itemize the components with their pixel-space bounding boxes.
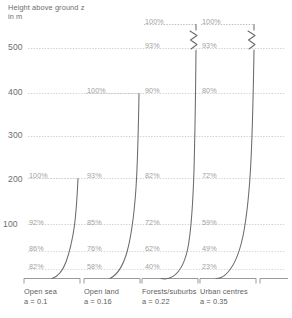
y-axis-label-400: 400: [8, 87, 23, 97]
value-label-forests-200: 82%: [145, 171, 160, 180]
value-label-forests-500: 93%: [145, 41, 160, 50]
value-label-urban-20: 23%: [202, 262, 217, 271]
value-label-open-sea-200: 100%: [29, 171, 48, 180]
value-label-open-sea-100: 92%: [29, 218, 44, 227]
value-label-forests-top: 100%: [145, 17, 164, 26]
gridlines: [28, 49, 284, 270]
value-label-forests-50: 62%: [145, 244, 160, 253]
curve-urban-centres: [216, 25, 255, 279]
y-axis-label-100: 100: [3, 219, 18, 229]
value-label-forests-400: 90%: [145, 86, 160, 95]
value-label-open-sea-20: 82%: [29, 262, 44, 271]
panel-caption-open-sea: Open sea a = 0.1: [24, 287, 57, 306]
panel-caption-forests-suburbs: Forests/suburbs a = 0.22: [142, 287, 197, 306]
value-label-open-land-20: 58%: [87, 262, 102, 271]
curve-forests-suburbs: [161, 25, 197, 279]
y-axis-label-500: 500: [8, 42, 23, 52]
value-label-urban-50: 49%: [202, 244, 217, 253]
value-label-urban-400: 80%: [202, 86, 217, 95]
value-label-forests-20: 40%: [145, 262, 160, 271]
panel-baselines: [24, 279, 288, 284]
wind-profile-chart: Height above ground z in m: [0, 0, 292, 318]
value-label-open-land-50: 76%: [87, 244, 102, 253]
curve-open-sea: [52, 179, 78, 279]
panel-caption-open-land: Open land a = 0.16: [84, 287, 119, 306]
top-dotted-lines: [28, 25, 254, 179]
value-label-open-land-100: 85%: [87, 218, 102, 227]
panel-caption-urban-centres: Urban centres a = 0.35: [200, 287, 248, 306]
y-axis-label-200: 200: [8, 174, 23, 184]
value-label-urban-500: 93%: [202, 41, 217, 50]
value-label-open-sea-50: 86%: [29, 244, 44, 253]
value-label-urban-top: 100%: [202, 17, 221, 26]
value-label-urban-200: 72%: [202, 171, 217, 180]
value-label-open-land-400: 100%: [87, 86, 106, 95]
value-label-urban-100: 59%: [202, 218, 217, 227]
value-label-forests-100: 72%: [145, 218, 160, 227]
curve-open-land: [110, 94, 139, 279]
value-label-open-land-200: 93%: [87, 171, 102, 180]
y-axis-label-300: 300: [8, 130, 23, 140]
